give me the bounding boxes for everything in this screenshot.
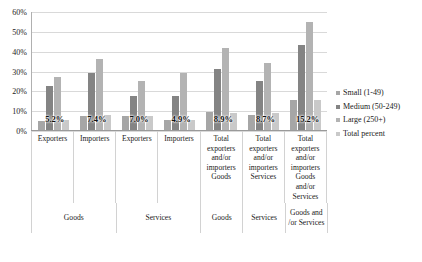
bar-small [248,115,255,130]
legend-swatch-icon [336,118,340,122]
category-label-line: Total [244,134,283,144]
bar-data-label: 7.0% [129,114,148,124]
category-label: Totalexportersand/orimportersServices [243,131,284,203]
category-labels-row: ExportersImportersExportersImportersTota… [31,131,327,203]
legend-swatch-icon [336,91,340,95]
group-label: Goods and /or Services [286,203,328,233]
bar-group: 7.4% [74,12,116,130]
bar-data-label: 7.4% [87,114,106,124]
category-column: Importers [74,131,116,203]
bar-data-label: 4.9% [172,114,191,124]
category-label-line: and/or [286,153,325,163]
y-axis-tick-label: 10% [12,107,27,116]
category-label-line: Total [202,134,241,144]
y-axis-tick-label: 20% [12,87,27,96]
bar-small [38,121,45,130]
category-label: Importers [74,131,115,203]
bar-group: 8.9% [201,12,243,130]
category-label: Exporters [32,131,73,203]
bar-small [206,112,213,130]
bar-data-label: 5.2% [45,114,64,124]
legend-item: Large (250+) [336,115,422,125]
category-label-line: Goods [202,172,241,182]
category-label-line: Services [244,172,283,182]
category-column: Exporters [32,131,74,203]
category-label-line: and/or [286,182,325,192]
chart-legend: Small (1-49)Medium (50-249)Large (250+)T… [336,88,422,142]
bar-group: 4.9% [158,12,200,130]
category-label-line: Services [286,192,325,202]
category-column: Importers [158,131,200,203]
legend-label: Large (250+) [343,115,385,125]
legend-label: Medium (50-249) [343,102,400,112]
y-axis-tick-label: 0% [16,127,27,136]
category-label-line: Exporters [33,134,72,144]
category-label-line: Importers [75,134,114,144]
legend-label: Total percent [343,129,385,139]
legend-item: Medium (50-249) [336,102,422,112]
bar-groups: 5.2%7.4%7.0%4.9%8.9%8.7%15.2% [32,12,327,130]
category-label: Totalexportersand/orimportersGoodsand/or… [285,131,326,203]
y-axis-tick-label: 50% [12,27,27,36]
legend-swatch-icon [336,105,340,109]
bar-group: 7.0% [116,12,158,130]
group-label: Goods [201,203,243,233]
group-label: Services [117,203,202,233]
bar-group: 15.2% [285,12,327,130]
category-label-line: importers [244,163,283,173]
plot-canvas: 60%50%40%30%20%10%0% 5.2%7.4%7.0%4.9%8.9… [31,12,327,131]
group-labels-row: GoodsServicesGoodsServicesGoods and /or … [31,203,327,233]
bar-group: 8.7% [243,12,285,130]
category-label-line: Exporters [117,134,156,144]
bar-small [122,116,129,130]
bar-small [164,120,171,130]
bar-chart: 60%50%40%30%20%10%0% 5.2%7.4%7.0%4.9%8.9… [0,0,422,262]
bar-data-label: 15.2% [296,114,319,124]
group-label: Services [243,203,285,233]
category-label: Totalexportersand/orimportersGoods [201,131,242,203]
category-column: Exporters [116,131,158,203]
category-label-line: and/or [202,153,241,163]
bar-data-label: 8.9% [214,114,233,124]
category-column: Totalexportersand/orimportersGoods [201,131,243,203]
bar-group: 5.2% [32,12,74,130]
category-label-line: Goods [286,172,325,182]
category-label-line: importers [286,163,325,173]
legend-item: Total percent [336,129,422,139]
y-axis-tick-label: 60% [12,8,27,17]
legend-item: Small (1-49) [336,88,422,98]
category-label: Exporters [116,131,157,203]
category-label-line: Importers [159,134,198,144]
y-axis-tick-label: 30% [12,67,27,76]
category-label-line: Total [286,134,325,144]
category-column: Totalexportersand/orimportersServices [243,131,285,203]
category-label-line: exporters [286,144,325,154]
y-axis-tick-label: 40% [12,47,27,56]
legend-label: Small (1-49) [343,88,384,98]
group-label: Goods [32,203,117,233]
category-label-line: importers [202,163,241,173]
plot-area: 60%50%40%30%20%10%0% 5.2%7.4%7.0%4.9%8.9… [31,12,327,131]
bar-data-label: 8.7% [256,114,275,124]
category-label-line: exporters [202,144,241,154]
legend-swatch-icon [336,132,340,136]
category-label: Importers [158,131,199,203]
category-label-line: and/or [244,153,283,163]
category-label-line: exporters [244,144,283,154]
category-column: Totalexportersand/orimportersGoodsand/or… [285,131,327,203]
bar-small [80,116,87,130]
